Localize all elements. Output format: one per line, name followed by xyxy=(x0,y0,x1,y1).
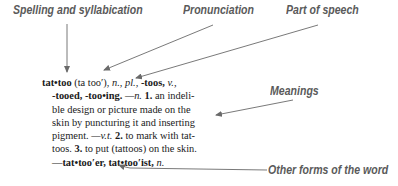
arrows-layer xyxy=(0,0,398,186)
arrow-pronunciation xyxy=(104,25,213,70)
arrow-part-of-speech xyxy=(136,25,318,78)
arrow-meanings xyxy=(216,100,293,115)
arrow-other-forms xyxy=(119,165,267,170)
